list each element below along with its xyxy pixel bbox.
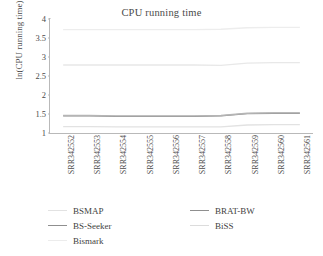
series-line <box>63 27 300 29</box>
x-axis-tick-label: SRR342557 <box>198 135 207 174</box>
x-axis-tick-label: SRR342558 <box>224 135 233 174</box>
series-line <box>63 63 300 66</box>
x-axis-tick-label: SRR342553 <box>93 135 102 174</box>
y-axis-tick-label: 3.5 <box>35 33 49 43</box>
legend-item: BiSS <box>190 221 310 231</box>
series-lines <box>50 19 313 133</box>
x-axis-tick-label: SRR342555 <box>146 135 155 174</box>
legend-label: BRAT-BW <box>215 206 255 216</box>
y-axis-ticks: 43.532.521.51 <box>0 19 49 133</box>
cpu-running-time-chart: CPU running time ln(CPU running time) 43… <box>0 0 323 256</box>
legend-item: BRAT-BW <box>190 206 310 216</box>
legend-item: BS-Seeker <box>48 221 190 231</box>
y-axis-tick-label: 2.5 <box>35 71 49 81</box>
series-line <box>63 113 300 116</box>
legend-swatch <box>48 225 67 226</box>
legend-label: Bismark <box>73 236 104 246</box>
legend-item: BSMAP <box>48 206 190 216</box>
legend-swatch <box>190 225 209 226</box>
legend-swatch <box>48 210 67 211</box>
x-axis-tick-labels: SRR342552SRR342553SRR342554SRR342555SRR3… <box>50 135 313 190</box>
legend-item: Bismark <box>48 236 190 246</box>
legend-swatch <box>190 210 209 211</box>
x-axis-tick-label: SRR342552 <box>67 135 76 174</box>
legend-label: BiSS <box>215 221 234 231</box>
legend-label: BSMAP <box>73 206 104 216</box>
series-line <box>63 125 300 127</box>
x-axis-line <box>49 133 313 134</box>
x-axis-tick-label: SRR342561 <box>303 135 312 174</box>
x-axis-tick-label: SRR342556 <box>172 135 181 174</box>
legend-swatch <box>48 240 67 241</box>
x-axis-tick-label: SRR342559 <box>251 135 260 174</box>
x-axis-tick-label: SRR342554 <box>119 135 128 174</box>
chart-legend: BSMAPBRAT-BWBS-SeekerBiSSBismark <box>48 203 298 248</box>
legend-label: BS-Seeker <box>73 221 112 231</box>
x-axis-tick-label: SRR342560 <box>277 135 286 174</box>
y-axis-tick-label: 1.5 <box>35 109 49 119</box>
